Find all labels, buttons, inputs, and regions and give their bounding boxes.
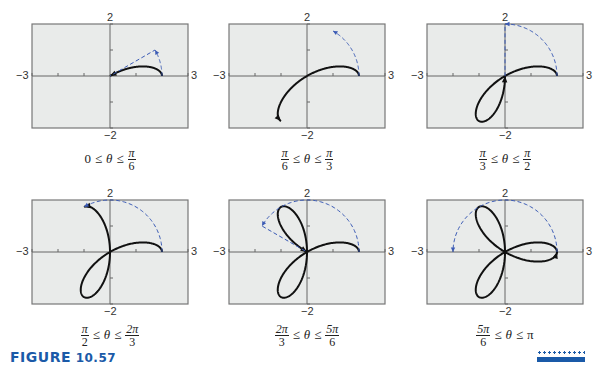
panel-caption: π2≤θ≤2π3 [32, 320, 188, 350]
x-min-label: −3 [16, 70, 29, 81]
y-max-label: 2 [107, 12, 113, 23]
x-max-label: 3 [191, 70, 197, 81]
y-max-label: 2 [502, 12, 508, 23]
x-min-label: −3 [16, 246, 29, 257]
y-min-label: −2 [301, 130, 314, 141]
panel-caption: π6≤θ≤π3 [229, 144, 385, 174]
figure-label: Figure 10.57 [10, 349, 116, 365]
x-min-label: −3 [411, 70, 424, 81]
plot-panel-1: 2−2−330≤θ≤π6 [32, 24, 188, 128]
plot-area [229, 200, 385, 304]
panel-caption: 5π6≤θ≤π [427, 320, 583, 350]
y-max-label: 2 [107, 188, 113, 199]
decorative-dots [537, 351, 585, 354]
y-min-label: −2 [301, 306, 314, 317]
decorative-dotted-bar [537, 351, 585, 363]
plot-panel-4: 2−2−33π2≤θ≤2π3 [32, 200, 188, 304]
decorative-bar [537, 357, 585, 362]
y-min-label: −2 [104, 130, 117, 141]
plot-panel-6: 2−2−335π6≤θ≤π [427, 200, 583, 304]
figure-label-word: Figure [10, 349, 71, 365]
y-min-label: −2 [499, 306, 512, 317]
y-min-label: −2 [104, 306, 117, 317]
y-max-label: 2 [502, 188, 508, 199]
plot-panel-3: 2−2−33π3≤θ≤π2 [427, 24, 583, 128]
panel-caption: 0≤θ≤π6 [32, 144, 188, 174]
x-max-label: 3 [388, 246, 394, 257]
plot-area [32, 24, 188, 128]
plot-area [427, 200, 583, 304]
y-max-label: 2 [304, 188, 310, 199]
y-min-label: −2 [499, 130, 512, 141]
x-max-label: 3 [586, 70, 592, 81]
figure-label-number: 10.57 [76, 351, 116, 365]
panel-caption: 2π3≤θ≤5π6 [229, 320, 385, 350]
panel-caption: π3≤θ≤π2 [427, 144, 583, 174]
x-max-label: 3 [388, 70, 394, 81]
plot-area [427, 24, 583, 128]
x-min-label: −3 [411, 246, 424, 257]
plot-panel-2: 2−2−33π6≤θ≤π3 [229, 24, 385, 128]
x-min-label: −3 [213, 246, 226, 257]
y-max-label: 2 [304, 12, 310, 23]
x-max-label: 3 [586, 246, 592, 257]
plot-area [229, 24, 385, 128]
plot-area [32, 200, 188, 304]
x-min-label: −3 [213, 70, 226, 81]
plot-panel-5: 2−2−332π3≤θ≤5π6 [229, 200, 385, 304]
x-max-label: 3 [191, 246, 197, 257]
